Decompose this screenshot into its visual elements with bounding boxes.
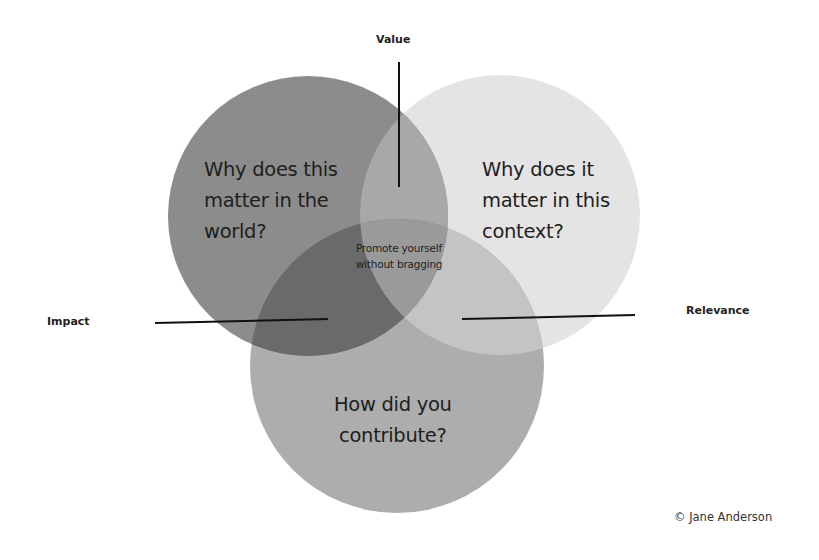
circle-contribution-line: How did you [334,389,452,420]
circle-context-line: Why does it [482,154,610,185]
venn-diagram [0,0,819,560]
circle-contribution-line: contribute? [334,420,452,451]
value-label: Value [376,33,410,46]
center-text-line: without bragging [344,256,454,272]
circle-context-line: context? [482,216,610,247]
relevance-label: Relevance [686,304,750,317]
circle-world-line: matter in the [204,185,338,216]
center-text-line: Promote yourself [344,240,454,256]
circle-context-text: Why does it matter in this context? [482,154,610,247]
copyright-credit: © Jane Anderson [674,510,772,524]
center-text: Promote yourself without bragging [344,240,454,272]
impact-label: Impact [47,315,90,328]
circle-world-line: Why does this [204,154,338,185]
circle-world-text: Why does this matter in the world? [204,154,338,247]
circle-world-line: world? [204,216,338,247]
circle-context-line: matter in this [482,185,610,216]
circle-contribution-text: How did you contribute? [334,389,452,451]
